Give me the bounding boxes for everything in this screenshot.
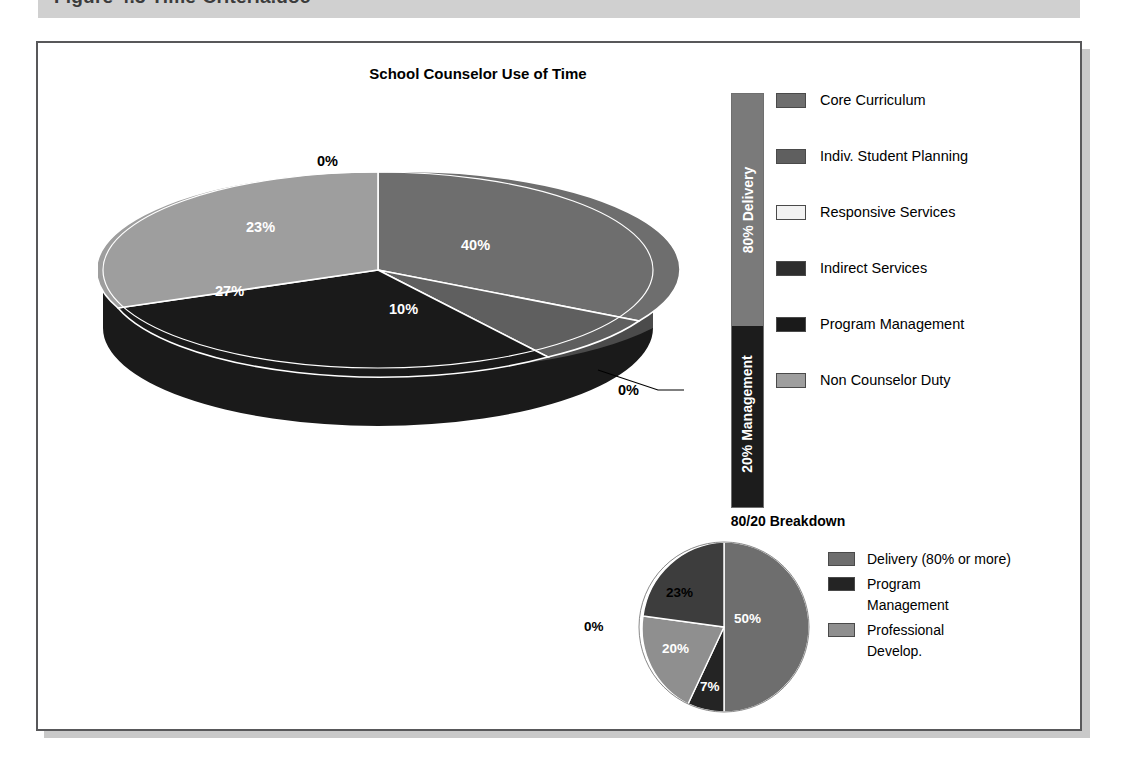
legend-label-indiv-student-planning: Indiv. Student Planning (820, 147, 968, 166)
breakdown-slice-delivery (724, 542, 809, 712)
breakdown-value-label-20: 20% (662, 641, 689, 656)
main-pie-value-label-27: 27% (215, 283, 244, 299)
legend-item-program-management[interactable]: Program Management (776, 315, 1076, 334)
breakdown-legend-item-professional-develop[interactable]: Professional Develop. (828, 620, 1068, 662)
breakdown-legend-swatch-icon-program-management (828, 577, 855, 591)
main-chart-title: School Counselor Use of Time (198, 65, 758, 82)
breakdown-chart: 80/20 Breakdown 50% 7% 20% 23% 0% (586, 513, 1066, 718)
breakdown-legend-swatch-icon-professional-develop (828, 623, 855, 637)
breakdown-legend-swatch-icon-delivery (828, 552, 855, 566)
legend-label-non-counselor-duty: Non Counselor Duty (820, 371, 951, 390)
legend-label-core-curriculum: Core Curriculum (820, 91, 926, 110)
figure-header-text: Figure 4.3 Time-Criteria.doc (54, 0, 311, 8)
delivery-bar-label: 80% Delivery (740, 148, 756, 272)
breakdown-chart-legend: Delivery (80% or more) Program Managemen… (828, 549, 1068, 666)
main-chart-legend: Core Curriculum Indiv. Student Planning … (776, 91, 1076, 427)
figure-page: Figure 4.3 Time-Criteria.doc School Coun… (0, 0, 1121, 765)
legend-label-responsive-services: Responsive Services (820, 203, 955, 222)
management-bar-label: 20% Management (739, 338, 755, 490)
breakdown-legend-item-program-management[interactable]: Program Management (828, 574, 1068, 616)
legend-swatch-icon-program-management (776, 317, 806, 332)
management-bar-segment: 20% Management (732, 326, 763, 507)
legend-swatch-icon-indiv-student-planning (776, 149, 806, 164)
main-pie-chart: 0% 40% 10% 27% 23% 0% (98, 158, 718, 458)
main-pie-value-label-0: 0% (317, 153, 338, 169)
breakdown-pie-chart: 50% 7% 20% 23% 0% (634, 537, 814, 717)
main-pie-value-label-10: 10% (389, 301, 418, 317)
figure-header-band: Figure 4.3 Time-Criteria.doc (38, 0, 1080, 18)
legend-item-non-counselor-duty[interactable]: Non Counselor Duty (776, 371, 1076, 390)
breakdown-legend-label-delivery: Delivery (80% or more) (867, 549, 1011, 570)
legend-swatch-icon-non-counselor-duty (776, 373, 806, 388)
legend-swatch-icon-core-curriculum (776, 93, 806, 108)
breakdown-value-label-50: 50% (734, 611, 761, 626)
legend-item-responsive-services[interactable]: Responsive Services (776, 203, 1076, 222)
breakdown-pie-svg (634, 537, 814, 717)
breakdown-legend-item-delivery[interactable]: Delivery (80% or more) (828, 549, 1068, 570)
delivery-bar-segment: 80% Delivery (732, 94, 763, 326)
figure-shadow-bottom (44, 731, 1090, 738)
legend-item-core-curriculum[interactable]: Core Curriculum (776, 91, 1076, 110)
legend-item-indiv-student-planning[interactable]: Indiv. Student Planning (776, 147, 1076, 166)
main-pie-value-label-23: 23% (246, 219, 275, 235)
breakdown-value-label-23: 23% (666, 585, 693, 600)
breakdown-legend-label-professional-develop: Professional Develop. (867, 620, 997, 662)
breakdown-value-label-zero: 0% (584, 619, 604, 634)
legend-label-indirect-services: Indirect Services (820, 259, 927, 278)
breakdown-chart-title: 80/20 Breakdown (678, 513, 898, 529)
delivery-management-bar: 80% Delivery 20% Management (731, 93, 764, 508)
breakdown-legend-label-program-management: Program Management (867, 574, 997, 616)
figure-frame: School Counselor Use of Time (36, 41, 1082, 731)
breakdown-value-label-7: 7% (700, 679, 720, 694)
legend-item-indirect-services[interactable]: Indirect Services (776, 259, 1076, 278)
main-pie-value-label-zero-right: 0% (618, 382, 639, 398)
main-pie-value-label-40: 40% (461, 237, 490, 253)
legend-swatch-icon-responsive-services (776, 205, 806, 220)
legend-label-program-management: Program Management (820, 315, 964, 334)
legend-swatch-icon-indirect-services (776, 261, 806, 276)
figure-shadow-right (1082, 49, 1090, 738)
